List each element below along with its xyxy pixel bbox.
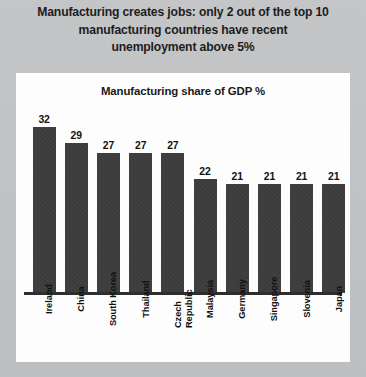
x-tick: Malaysia	[189, 297, 221, 359]
headline-line-1: Manufacturing creates jobs: only 2 out o…	[8, 4, 358, 22]
bar-item: 29	[60, 103, 92, 293]
x-tick: Czech Republic	[157, 297, 189, 359]
bar-item: 21	[253, 103, 285, 293]
bar-value-label: 21	[328, 171, 339, 183]
x-tick: Singapore	[253, 297, 285, 359]
x-tick-label: Malaysia	[205, 280, 216, 318]
bar-rect	[33, 127, 56, 293]
x-axis-tick-labels: IrelandChinaSouth KoreaThailandCzech Rep…	[28, 297, 350, 359]
headline-text: Manufacturing creates jobs: only 2 out o…	[8, 4, 358, 57]
bar-value-label: 22	[199, 166, 210, 178]
bar-value-label: 29	[71, 130, 82, 142]
bar-value-label: 32	[38, 114, 49, 126]
headline-line-3: unemployment above 5%	[8, 39, 358, 57]
bar-item: 21	[318, 103, 350, 293]
x-tick: Ireland	[28, 297, 60, 359]
x-tick: China	[60, 297, 92, 359]
x-tick-label: Thailand	[141, 280, 152, 317]
x-tick: Japan	[318, 297, 350, 359]
bar-value-label: 27	[135, 140, 146, 152]
bar-item: 27	[125, 103, 157, 293]
bar-rect	[290, 184, 313, 293]
x-tick: Thailand	[125, 297, 157, 359]
bar-rect	[65, 143, 88, 293]
chart-title: Manufacturing share of GDP %	[16, 85, 350, 97]
x-tick: South Korea	[92, 297, 124, 359]
bar-rect	[322, 184, 345, 293]
bar-series: 32292727272221212121	[28, 103, 350, 293]
x-tick-label: Japan	[334, 286, 345, 312]
bar-value-label: 27	[167, 140, 178, 152]
x-tick: Germany	[221, 297, 253, 359]
x-tick: Slovenia	[286, 297, 318, 359]
bar-item: 21	[286, 103, 318, 293]
x-tick-label: Slovenia	[302, 280, 313, 317]
x-tick-label: Ireland	[44, 284, 55, 314]
x-tick-label: South Korea	[108, 272, 119, 326]
bar-rect	[226, 184, 249, 293]
bar-rect	[194, 179, 217, 293]
bar-value-label: 27	[103, 140, 114, 152]
headline-line-2: manufacturing countries have recent	[8, 22, 358, 40]
bar-item: 22	[189, 103, 221, 293]
chart-image: Manufacturing creates jobs: only 2 out o…	[0, 0, 366, 377]
x-tick-label: Germany	[237, 279, 248, 319]
bar-item: 32	[28, 103, 60, 293]
bar-value-label: 21	[264, 171, 275, 183]
bar-value-label: 21	[296, 171, 307, 183]
bar-rect	[129, 153, 152, 293]
x-tick-label: Singapore	[269, 277, 280, 322]
x-tick-label: China	[76, 286, 87, 311]
chart-panel: Manufacturing share of GDP % 32292727272…	[16, 73, 350, 362]
bar-value-label: 21	[232, 171, 243, 183]
plot-area: 32292727272221212121	[28, 103, 350, 293]
bar-item: 21	[221, 103, 253, 293]
bar-item: 27	[92, 103, 124, 293]
bar-item: 27	[157, 103, 189, 293]
